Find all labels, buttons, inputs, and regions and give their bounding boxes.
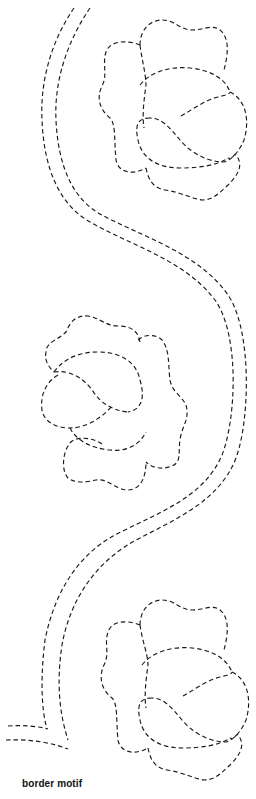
stem-left xyxy=(140,45,146,128)
petal-right-large xyxy=(152,672,249,742)
petal-right-large xyxy=(150,92,247,162)
flower-bottom xyxy=(101,600,248,780)
caption-label: border motif xyxy=(22,778,82,789)
petal-top xyxy=(140,600,227,650)
petal-left xyxy=(101,622,148,752)
center-loop xyxy=(183,672,232,696)
petal-top xyxy=(140,20,227,70)
center-upper-ring xyxy=(142,648,232,672)
border-motif-diagram xyxy=(0,0,256,799)
petal-top xyxy=(46,316,140,372)
flower-middle xyxy=(42,316,187,490)
vine-corner-upper xyxy=(8,726,48,729)
center-upper-ring xyxy=(54,352,142,412)
center-upper-ring xyxy=(140,68,230,92)
center-lower-arc xyxy=(70,428,146,450)
center-loop xyxy=(54,372,128,412)
flower-top xyxy=(99,20,246,200)
center-loop xyxy=(181,92,230,116)
vine-outer-line xyxy=(42,8,233,725)
petal-right xyxy=(138,336,187,469)
stem-left xyxy=(140,625,148,708)
petal-left xyxy=(99,42,146,172)
center-lower-ring xyxy=(42,375,112,428)
vine-corner-lower xyxy=(6,740,68,749)
